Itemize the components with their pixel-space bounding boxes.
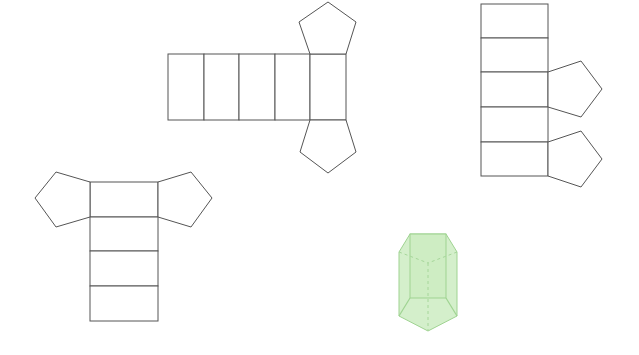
net-a-face-3 [239, 54, 275, 120]
net-c-right-pentagon [158, 172, 212, 227]
diagram-canvas [0, 0, 639, 355]
net-a-face-4 [275, 54, 310, 120]
net-c-face-1 [90, 182, 158, 217]
pentagonal-prism [399, 234, 457, 331]
net-a-face-1 [168, 54, 204, 120]
net-b-face-5 [481, 142, 548, 176]
net-b-face-4 [481, 107, 548, 142]
net-a-face-2 [204, 54, 239, 120]
net-b [481, 4, 602, 187]
net-c-face-3 [90, 251, 158, 286]
net-b-face-3 [481, 72, 548, 107]
net-a-bottom-pentagon [300, 120, 356, 173]
net-b-face-1 [481, 4, 548, 38]
net-c-face-4 [90, 286, 158, 321]
net-a [168, 2, 356, 173]
net-a-face-5 [310, 54, 346, 120]
net-a-top-pentagon [299, 2, 356, 54]
net-c-face-2 [90, 217, 158, 251]
net-b-face-2 [481, 38, 548, 72]
net-c [35, 172, 212, 321]
net-b-pentagon-2 [548, 131, 602, 187]
net-b-pentagon-1 [548, 61, 602, 117]
net-c-left-pentagon [35, 172, 90, 227]
